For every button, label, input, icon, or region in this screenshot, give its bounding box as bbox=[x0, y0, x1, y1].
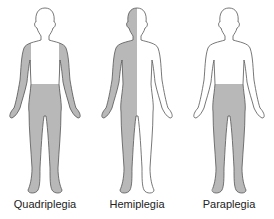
quadriplegia-figure: Quadriplegia bbox=[0, 0, 90, 200]
hemiplegia-figure: Hemiplegia bbox=[92, 0, 182, 200]
figure-label: Hemiplegia bbox=[92, 198, 182, 210]
figure-label: Paraplegia bbox=[184, 198, 274, 210]
body-silhouette-icon bbox=[0, 0, 90, 200]
body-silhouette-icon bbox=[92, 0, 182, 200]
paraplegia-figure: Paraplegia bbox=[184, 0, 274, 200]
body-silhouette-icon bbox=[184, 0, 274, 200]
figure-label: Quadriplegia bbox=[0, 198, 90, 210]
